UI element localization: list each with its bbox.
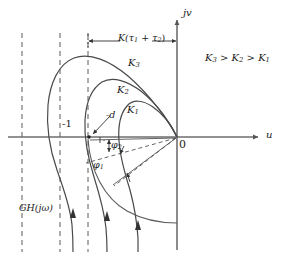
nyquist-curve-k3	[47, 56, 177, 252]
curve-label-k2: K2	[117, 85, 129, 96]
nyquist-plot-figure: jv u 0 -1 K(τ1 + τ2) K3 > K2 > K1 K3 K2 …	[0, 0, 291, 260]
real-axis-label: u	[266, 130, 272, 140]
phi2-label: φ2	[111, 140, 122, 151]
gain-order-label: K3 > K2 > K1	[205, 53, 270, 64]
curve-label-k1: K1	[127, 105, 139, 116]
nyquist-curve-k1	[119, 101, 177, 252]
origin-label: 0	[179, 139, 186, 150]
imaginary-axis-label: jv	[183, 8, 192, 18]
critical-point-label: -1	[62, 119, 72, 129]
curve-label-k3: K3	[128, 58, 140, 69]
dimension-label: K(τ1 + τ2)	[118, 33, 165, 44]
transfer-function-label: GH(jω)	[19, 203, 53, 213]
phi1-label: φ1	[93, 160, 104, 171]
chord-line-upper	[90, 138, 176, 140]
lower-locus-arc	[88, 139, 177, 223]
distance-label: -d	[106, 110, 115, 120]
